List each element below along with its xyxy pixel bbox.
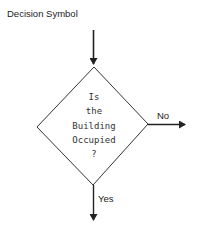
no-label: No	[157, 110, 169, 121]
yes-label: Yes	[98, 193, 114, 204]
decision-line: Occupied	[72, 135, 115, 145]
decision-text: Is the Building Occupied ?	[72, 92, 115, 159]
decision-line: the	[86, 106, 102, 116]
decision-line: Building	[72, 121, 115, 131]
decision-line: ?	[91, 149, 96, 159]
flowchart: Is the Building Occupied ? No Yes	[0, 0, 197, 229]
decision-line: Is	[89, 92, 100, 102]
